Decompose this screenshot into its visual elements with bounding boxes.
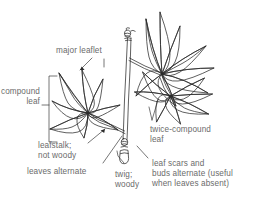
twice-compound-leaf [129,12,214,124]
compound-leaf [50,70,125,138]
label-leafstalk-line2: not woody [38,151,76,161]
twig-stem [123,38,131,140]
label-twice-compound-line2: leaf [150,135,164,145]
label-leaf-scars-line1: leaf scars and [152,159,204,169]
upper-bud-node [124,28,135,41]
label-leaf-scars-line3: when leaves absent) [152,179,229,189]
label-leaves-alternate: leaves alternate [27,167,86,177]
figure-canvas: major leaflet compound leaf leafstalk; n… [0,0,253,199]
label-twig-line2: woody [115,180,139,190]
label-leaf-scars-line2: buds alternate (useful [152,169,233,179]
label-compound-leaf-line2: leaf [0,97,40,107]
label-compound-leaf-line1: compound [0,87,40,97]
label-leafstalk-line1: leafstalk; [38,141,71,151]
label-major-leaflet: major leaflet [56,46,102,56]
label-twice-compound-line1: twice-compound [150,125,211,135]
compound-leaf-bracket [42,76,57,142]
label-twig-line1: twig; [115,170,132,180]
